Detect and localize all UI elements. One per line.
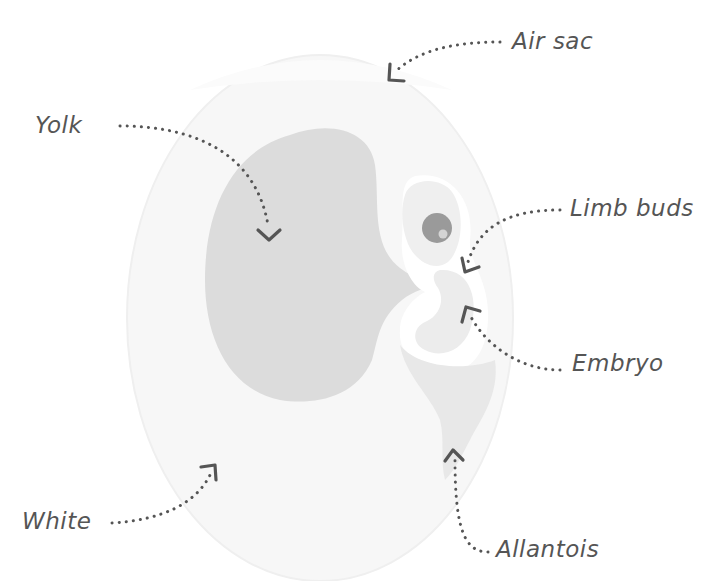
embryo-eye-highlight [439, 230, 448, 239]
label-embryo: Embryo [572, 352, 664, 375]
label-white: White [22, 510, 91, 533]
label-yolk: Yolk [35, 114, 82, 137]
egg-illustration [0, 0, 718, 581]
label-allantois: Allantois [496, 538, 599, 561]
embryo-eye [422, 213, 452, 243]
egg-diagram: Air sac Yolk Limb buds Embryo White Alla… [0, 0, 718, 581]
air-sac-leader [395, 42, 500, 72]
label-air-sac: Air sac [512, 30, 593, 53]
label-limb-buds: Limb buds [570, 197, 694, 220]
